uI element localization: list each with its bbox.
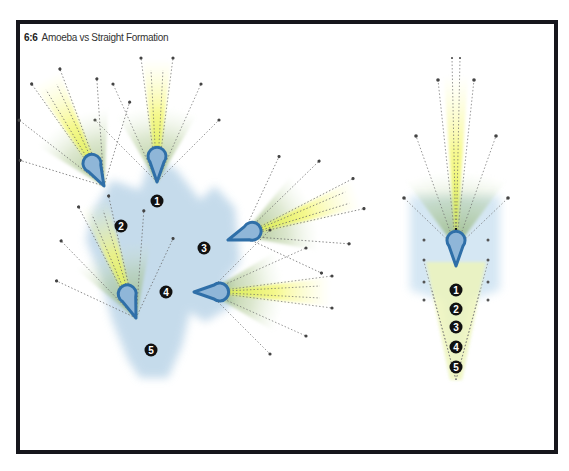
svg-text:1: 1	[154, 196, 160, 207]
amoeba-formation: 1 2 3 4 5	[0, 45, 382, 378]
amoeba-badge-4: 4	[160, 286, 173, 299]
svg-text:5: 5	[148, 345, 154, 356]
svg-text:2: 2	[453, 304, 459, 315]
svg-text:5: 5	[453, 362, 459, 373]
formation-diagram: 1 2 3 4 5	[0, 0, 569, 471]
amoeba-member-2-body	[80, 151, 112, 190]
straight-badge-3: 3	[450, 321, 463, 334]
amoeba-badge-3: 3	[198, 242, 211, 255]
straight-badge-5: 5	[450, 361, 463, 374]
straight-badge-4: 4	[450, 341, 463, 354]
svg-text:4: 4	[453, 342, 459, 353]
amoeba-badge-2: 2	[115, 220, 128, 233]
svg-text:4: 4	[163, 287, 169, 298]
straight-formation: 1 2 3 4 5	[402, 57, 510, 380]
amoeba-badge-1: 1	[151, 195, 164, 208]
svg-text:3: 3	[453, 322, 459, 333]
svg-text:3: 3	[201, 243, 207, 254]
straight-badge-1: 1	[450, 284, 463, 297]
straight-badge-2: 2	[450, 303, 463, 316]
svg-text:2: 2	[118, 221, 124, 232]
amoeba-badge-5: 5	[145, 344, 158, 357]
svg-text:1: 1	[453, 285, 459, 296]
